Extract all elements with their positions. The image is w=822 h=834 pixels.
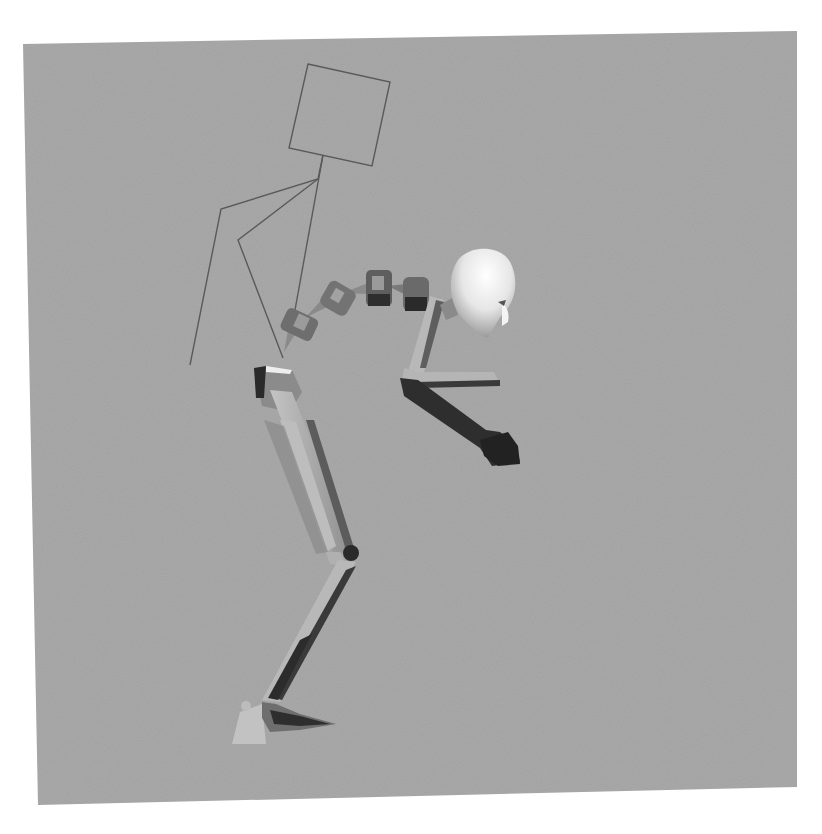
viewport-background xyxy=(23,31,797,805)
vertebra-3 xyxy=(366,270,392,306)
vertebra-4 xyxy=(403,277,429,311)
render-canvas xyxy=(0,0,822,834)
knee xyxy=(343,545,359,561)
render-scene xyxy=(0,0,822,834)
